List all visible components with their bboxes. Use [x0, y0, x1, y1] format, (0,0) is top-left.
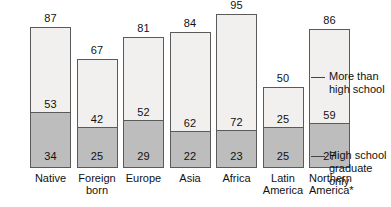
bar-group: 865927NorthernAmerica* [309, 29, 350, 168]
category-label-line2: America [263, 184, 304, 196]
bar-segment-more-than-high-school[interactable]: 62 [171, 33, 210, 133]
stacked-bar[interactable]: 6222 [170, 32, 211, 168]
segment-value-lower: 29 [137, 151, 150, 162]
category-label: LatinAmerica [263, 168, 304, 196]
bar-segment-high-school-graduate-only[interactable]: 22 [171, 131, 210, 167]
segment-value-lower: 22 [184, 151, 197, 162]
bar-total-label: 86 [309, 15, 350, 26]
category-label-line1: Europe [126, 172, 161, 184]
category-label-line1: Foreign [78, 172, 115, 184]
segment-value-upper: 62 [184, 118, 197, 129]
bar-group: 957223Africa [216, 14, 257, 168]
segment-value-lower: 25 [277, 151, 290, 162]
legend-upper-line1: More than [329, 70, 379, 82]
bar-segment-more-than-high-school[interactable]: 25 [264, 88, 303, 129]
segment-value-lower: 34 [44, 151, 57, 162]
bar-group: 502525LatinAmerica [263, 87, 304, 168]
segment-value-upper: 52 [137, 107, 150, 118]
category-label: Europe [123, 168, 164, 184]
stacked-bar[interactable]: 4225 [77, 59, 118, 168]
bar-segment-high-school-graduate-only[interactable]: 34 [31, 112, 70, 167]
bar-group: 815229Europe [123, 37, 164, 168]
stacked-bar[interactable]: 5229 [123, 37, 164, 168]
legend-lower-line2: graduate only [329, 162, 391, 188]
bar-segment-more-than-high-school[interactable]: 42 [78, 60, 117, 128]
category-label: Native [30, 168, 71, 184]
category-label: Asia [170, 168, 211, 184]
legend-item-more-than-high-school: More than high school [329, 70, 385, 96]
bar-segment-high-school-graduate-only[interactable]: 23 [217, 130, 256, 167]
segment-value-upper: 25 [277, 114, 290, 125]
category-label: Africa [216, 168, 257, 184]
segment-value-upper: 72 [230, 117, 243, 128]
legend-upper-line2: high school [329, 83, 385, 96]
stacked-bar[interactable]: 7223 [216, 14, 257, 168]
bar-total-label: 84 [170, 18, 211, 29]
segment-value-upper: 42 [91, 114, 104, 125]
stacked-bar[interactable]: 5334 [30, 27, 71, 168]
stacked-bar[interactable]: 5927 [309, 29, 350, 168]
stacked-bar-chart: 875334Native674225Foreignborn815229Europ… [0, 0, 391, 207]
bar-total-label: 67 [77, 45, 118, 56]
bar-segment-high-school-graduate-only[interactable]: 29 [124, 120, 163, 167]
legend-item-high-school-graduate-only: High school graduate only [329, 149, 391, 188]
bar-total-label: 95 [216, 0, 257, 11]
segment-value-upper: 53 [44, 99, 57, 110]
category-label-line2: born [77, 184, 118, 196]
legend-leader-line-upper [311, 77, 325, 78]
category-label: Foreignborn [77, 168, 118, 196]
segment-value-lower: 25 [91, 151, 104, 162]
bar-total-label: 81 [123, 23, 164, 34]
category-label-line1: Latin [271, 172, 295, 184]
bar-segment-high-school-graduate-only[interactable]: 25 [78, 127, 117, 168]
legend-leader-line-lower [311, 156, 325, 157]
segment-value-lower: 23 [230, 151, 243, 162]
bar-segment-more-than-high-school[interactable]: 53 [31, 28, 70, 114]
legend-lower-line1: High school [329, 149, 386, 161]
bar-segment-more-than-high-school[interactable]: 52 [124, 38, 163, 122]
bar-total-label: 50 [263, 73, 304, 84]
bar-segment-more-than-high-school[interactable]: 72 [217, 15, 256, 132]
segment-value-upper: 59 [323, 110, 336, 121]
bar-total-label: 87 [30, 13, 71, 24]
category-label-line1: Asia [179, 172, 200, 184]
bar-group: 846222Asia [170, 32, 211, 168]
bar-group: 875334Native [30, 27, 71, 168]
stacked-bar[interactable]: 2525 [263, 87, 304, 168]
bar-group: 674225Foreignborn [77, 59, 118, 168]
category-label-line1: Africa [222, 172, 250, 184]
bar-segment-high-school-graduate-only[interactable]: 25 [264, 127, 303, 168]
category-label-line1: Native [35, 172, 66, 184]
